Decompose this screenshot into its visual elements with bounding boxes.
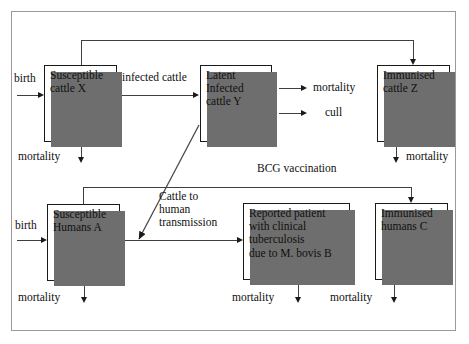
- node-susceptible-humans-a[interactable]: Susceptible Humans A: [47, 204, 120, 281]
- mortality-cattle-y-label: mortality: [313, 81, 355, 94]
- birth-cattle-label: birth: [14, 72, 36, 85]
- birth-humans-label: birth: [15, 219, 37, 232]
- node-immunised-cattle-z[interactable]: Immunised cattle Z: [377, 65, 450, 142]
- node-latent-infected-cattle-y[interactable]: Latent Infected cattle Y: [200, 65, 272, 142]
- node-label: Immunised humans C: [381, 207, 445, 233]
- mortality-cattle-y-line: [279, 88, 303, 89]
- infected-cattle-line: [118, 95, 194, 96]
- birth-humans-line: [17, 240, 42, 241]
- cull-cattle-y-arrowhead: [301, 110, 307, 116]
- node-label: Latent Infected cattle Y: [206, 69, 269, 109]
- mortality-humans-a-label: mortality: [18, 291, 60, 304]
- humans-to-patient-line: [121, 240, 238, 241]
- mortality-cattle-z-label: mortality: [406, 150, 448, 163]
- mortality-cattle-x-label: mortality: [18, 150, 60, 163]
- node-immunised-humans-c[interactable]: Immunised humans C: [375, 203, 448, 280]
- mortality-humans-a-arrowhead: [81, 297, 87, 303]
- cattle-to-human-transmission-label: Cattle to human transmission: [159, 190, 217, 229]
- bcg-vaccination-label: BCG vaccination: [257, 162, 337, 175]
- mortality-humans-c-label: mortality: [330, 291, 372, 304]
- mortality-patient-b-label: mortality: [232, 291, 274, 304]
- infected-cattle-label: infected cattle: [122, 71, 187, 84]
- bcg-cattle-drop: [413, 40, 414, 60]
- bcg-humans-riser: [83, 187, 84, 204]
- node-label: Susceptible Humans A: [53, 208, 117, 234]
- cull-cattle-y-line: [279, 113, 303, 114]
- bcg-cattle-run: [81, 40, 414, 41]
- node-reported-patient-b[interactable]: Reported patient with clinical tuberculo…: [243, 203, 350, 280]
- mortality-humans-c-arrowhead: [391, 297, 397, 303]
- node-susceptible-cattle-x[interactable]: Susceptible cattle X: [44, 65, 117, 142]
- bcg-humans-run: [83, 187, 412, 188]
- mortality-cattle-z-arrowhead: [393, 157, 399, 163]
- node-label: Immunised cattle Z: [383, 69, 447, 95]
- mortality-cattle-x-arrowhead: [78, 157, 84, 163]
- node-label: Susceptible cattle X: [50, 69, 114, 95]
- bcg-cattle-riser: [81, 40, 82, 66]
- infected-cattle-arrowhead: [193, 92, 199, 98]
- mortality-cattle-y-arrowhead: [301, 85, 307, 91]
- diagram-canvas: birth infected cattle mortality mortalit…: [0, 0, 469, 344]
- mortality-patient-b-arrowhead: [295, 297, 301, 303]
- birth-cattle-line: [17, 95, 39, 96]
- node-label: Reported patient with clinical tuberculo…: [249, 207, 347, 260]
- cull-cattle-y-label: cull: [325, 106, 342, 119]
